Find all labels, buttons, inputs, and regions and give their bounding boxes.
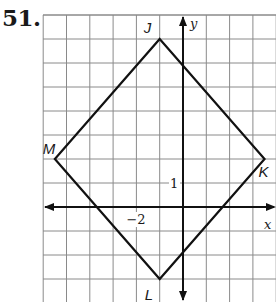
vertex-label-j: J [143, 19, 152, 36]
y-axis-label: y [189, 16, 198, 31]
y-tick-label: 1 [170, 176, 178, 191]
coordinate-graph: JKLMxy−21 [0, 0, 276, 302]
x-axis-label: x [264, 217, 272, 232]
x-axis-arrow-right-icon [266, 203, 276, 211]
vertex-label-l: L [145, 286, 153, 302]
vertex-label-k: K [259, 163, 270, 180]
y-axis-arrow-down-icon [179, 291, 187, 301]
y-axis-arrow-up-icon [179, 16, 187, 26]
x-axis-arrow-left-icon [44, 203, 54, 211]
grid-lines [43, 15, 276, 302]
x-tick-label: −2 [126, 212, 145, 227]
vertex-label-m: M [43, 140, 56, 157]
